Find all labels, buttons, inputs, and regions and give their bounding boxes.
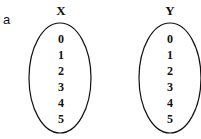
set-x-element: 1	[58, 49, 64, 61]
set-y-title: Y	[165, 3, 174, 19]
set-x-element: 5	[58, 113, 64, 125]
set-y-element: 2	[167, 65, 173, 77]
set-y-element: 5	[167, 113, 173, 125]
set-y-element: 4	[167, 97, 173, 109]
set-x-element: 0	[58, 33, 64, 45]
set-x-element: 4	[58, 97, 64, 109]
set-x-element: 2	[58, 65, 64, 77]
set-x-title: X	[56, 3, 65, 19]
set-y-element: 1	[167, 49, 173, 61]
set-y-element: 3	[167, 81, 173, 93]
set-y-element: 0	[167, 33, 173, 45]
set-x-element: 3	[58, 81, 64, 93]
